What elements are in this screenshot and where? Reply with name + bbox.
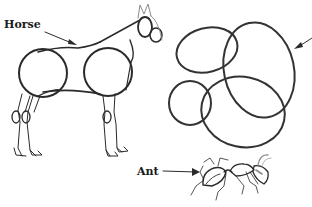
horse-label: Horse bbox=[4, 19, 41, 30]
ant-label: Ant bbox=[137, 166, 159, 177]
ovals-sketch bbox=[169, 16, 312, 155]
horse-arrow-icon bbox=[45, 32, 77, 45]
ant-arrow-icon bbox=[163, 168, 200, 176]
ovals-arrow-icon bbox=[294, 38, 312, 49]
drawing-figure: Horse Ant bbox=[0, 0, 312, 207]
ant-sketch bbox=[163, 155, 271, 200]
